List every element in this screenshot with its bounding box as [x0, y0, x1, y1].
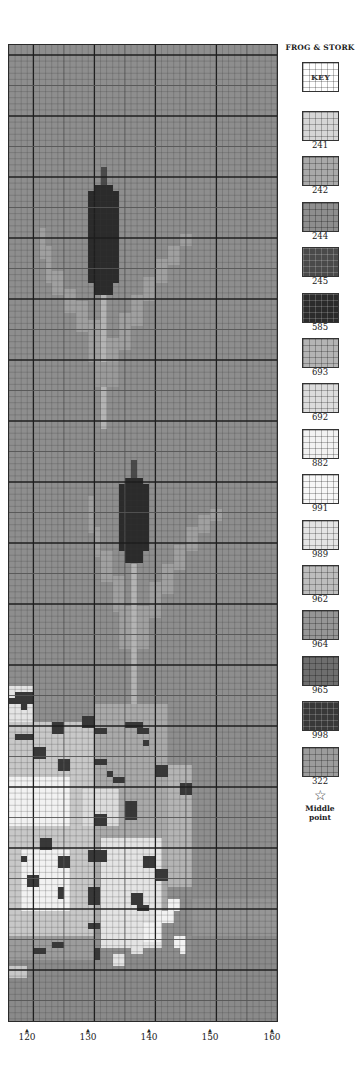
- stitch-block: [15, 734, 33, 740]
- legend-code-989: 989: [284, 549, 356, 559]
- stitch-block: [21, 704, 27, 710]
- stitch-block: [9, 777, 70, 826]
- stitch-block: [9, 966, 27, 978]
- color-key-legend: FROG & STORK KEY 24124224424558569369288…: [284, 0, 356, 1087]
- stitch-block: [155, 869, 167, 881]
- stitch-block: [40, 838, 52, 850]
- stitch-block: [58, 856, 70, 868]
- stitch-block: [9, 698, 21, 704]
- stitch-block: [131, 893, 143, 905]
- stitch-block: [155, 911, 173, 923]
- middle-point-label: Middle point: [284, 804, 356, 822]
- x-axis-tick-130: ▲130: [76, 1027, 100, 1042]
- legend-swatch-998: [302, 701, 339, 731]
- legend-swatch-585: [302, 293, 339, 323]
- stitch-block: [94, 759, 106, 765]
- legend-swatch-692: [302, 383, 339, 413]
- stitch-block: [21, 856, 27, 862]
- stitch-block: [180, 948, 186, 954]
- stitch-block: [125, 801, 137, 819]
- legend-code-991: 991: [284, 503, 356, 513]
- legend-code-964: 964: [284, 639, 356, 649]
- stitch-block: [131, 942, 143, 954]
- stitch-block: [137, 728, 149, 734]
- stitch-block: [82, 716, 94, 728]
- legend-swatch-245: [302, 247, 339, 277]
- stitch-block: [64, 289, 76, 313]
- stitch-block: [125, 551, 143, 563]
- stitch-block: [94, 948, 100, 960]
- stitch-block: [113, 777, 125, 783]
- stitch-block: [58, 759, 70, 771]
- legend-code-244: 244: [284, 231, 356, 241]
- stitch-block: [180, 234, 192, 246]
- stitch-block: [101, 551, 113, 582]
- stitch-block: [9, 960, 277, 1021]
- stitch-block: [101, 167, 107, 185]
- legend-swatch-244: [302, 202, 339, 232]
- stitch-block: [143, 740, 149, 746]
- stitch-block: [168, 246, 180, 264]
- stitch-block: [94, 362, 118, 386]
- legend-swatch-693: [302, 338, 339, 368]
- stitch-block: [113, 954, 125, 966]
- stitch-block: [88, 923, 100, 929]
- legend-swatch-989: [302, 520, 339, 550]
- legend-swatch-965: [302, 656, 339, 686]
- stitch-block: [143, 923, 161, 941]
- stitch-block: [119, 606, 131, 649]
- legend-code-998: 998: [284, 730, 356, 740]
- stitch-block: [94, 283, 112, 295]
- stitch-block: [155, 765, 167, 777]
- stitch-block: [137, 606, 149, 649]
- legend-code-585: 585: [284, 322, 356, 332]
- legend-title: FROG & STORK: [284, 43, 356, 52]
- legend-code-693: 693: [284, 367, 356, 377]
- stitch-block: [143, 277, 155, 301]
- legend-code-242: 242: [284, 185, 356, 195]
- stitch-block: [9, 936, 94, 960]
- legend-swatch-882: [302, 429, 339, 459]
- stitch-block: [155, 259, 167, 283]
- legend-swatch-991: [302, 474, 339, 504]
- stitch-block: [33, 747, 45, 759]
- legend-code-322: 322: [284, 776, 356, 786]
- stitch-block: [137, 905, 149, 911]
- stitch-block: [88, 320, 100, 363]
- stitch-block: [162, 564, 174, 595]
- stitch-block: [210, 509, 222, 521]
- legend-swatch-964: [302, 610, 339, 640]
- stitch-block: [88, 887, 100, 905]
- legend-code-962: 962: [284, 594, 356, 604]
- x-axis-tick-160: ▲160: [260, 1027, 284, 1042]
- legend-code-692: 692: [284, 412, 356, 422]
- legend-swatch-241: [302, 111, 339, 141]
- stitch-block: [174, 936, 186, 948]
- legend-swatch-242: [302, 156, 339, 186]
- stitch-block: [94, 814, 106, 826]
- stitch-block: [119, 313, 131, 350]
- stitch-block: [174, 545, 186, 569]
- stitch-block: [186, 527, 198, 551]
- legend-swatch-962: [302, 565, 339, 595]
- stitch-block: [88, 850, 106, 862]
- stitch-block: [52, 722, 64, 734]
- x-axis-tick-120: ▲120: [15, 1027, 39, 1042]
- stitch-block: [58, 887, 64, 899]
- stitch-block: [180, 783, 192, 795]
- key-label: KEY: [303, 63, 338, 91]
- key-swatch: KEY: [302, 62, 339, 92]
- legend-code-245: 245: [284, 276, 356, 286]
- legend-code-241: 241: [284, 140, 356, 150]
- stitch-block: [33, 948, 45, 954]
- stitch-block: [131, 295, 143, 326]
- stitch-block: [76, 301, 88, 332]
- legend-code-965: 965: [284, 685, 356, 695]
- legend-swatch-322: [302, 747, 339, 777]
- x-axis-tick-150: ▲150: [198, 1027, 222, 1042]
- stitch-block: [131, 460, 137, 478]
- stitch-chart-grid: [8, 44, 278, 1022]
- legend-code-882: 882: [284, 458, 356, 468]
- stitch-block: [52, 271, 64, 295]
- stitch-block: [94, 728, 106, 734]
